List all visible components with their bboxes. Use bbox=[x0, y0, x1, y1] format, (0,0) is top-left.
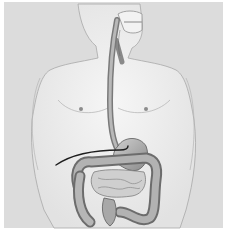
small-intestine bbox=[91, 170, 145, 198]
right-nipple bbox=[144, 107, 148, 111]
left-nipple bbox=[79, 107, 83, 111]
digestive-system-illustration bbox=[0, 0, 227, 238]
